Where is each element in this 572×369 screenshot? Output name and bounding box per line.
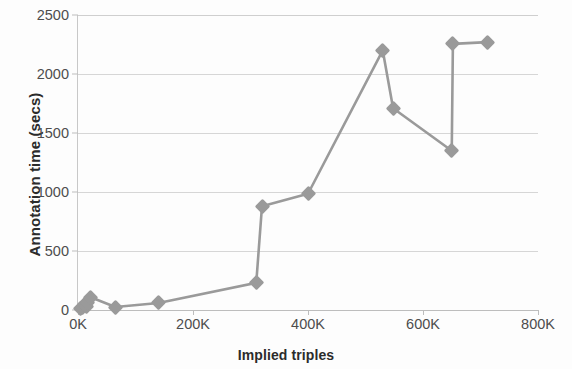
series-polyline xyxy=(78,15,538,310)
x-tick-label-800K: 800K xyxy=(503,316,572,332)
annotation-time-line-chart: Annotation time (secs) Implied triples 0… xyxy=(0,0,572,369)
y-tick-label-2000: 2000 xyxy=(9,66,69,82)
x-axis-title: Implied triples xyxy=(0,347,572,363)
x-tick-label-400K: 400K xyxy=(273,316,343,332)
x-tick-label-200K: 200K xyxy=(158,316,228,332)
y-tick-label-1500: 1500 xyxy=(9,125,69,141)
y-tick-label-2500: 2500 xyxy=(9,7,69,23)
y-tick-label-500: 500 xyxy=(9,243,69,259)
x-tick-label-0K: 0K xyxy=(43,316,113,332)
x-tick-mark-600K xyxy=(423,310,424,315)
x-tick-mark-400K xyxy=(308,310,309,315)
x-tick-mark-800K xyxy=(538,310,539,315)
plot-area xyxy=(78,15,538,310)
x-tick-label-600K: 600K xyxy=(388,316,458,332)
x-tick-mark-200K xyxy=(193,310,194,315)
y-axis-title: Annotation time (secs) xyxy=(26,45,43,305)
y-tick-label-1000: 1000 xyxy=(9,184,69,200)
